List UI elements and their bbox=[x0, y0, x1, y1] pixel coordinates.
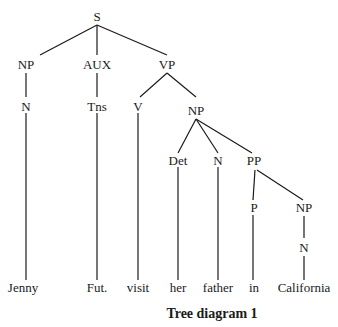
node-N-subject: N bbox=[21, 99, 31, 114]
node-AUX: AUX bbox=[83, 57, 112, 72]
leaf-visit: visit bbox=[127, 280, 150, 295]
figure-caption: Tree diagram 1 bbox=[166, 306, 257, 321]
node-NP-pp: NP bbox=[296, 200, 313, 215]
node-Det: Det bbox=[169, 153, 188, 168]
node-Tns: Tns bbox=[87, 99, 107, 114]
leaf-in: in bbox=[249, 280, 260, 295]
leaf-father: father bbox=[203, 280, 234, 295]
node-PP: PP bbox=[247, 153, 261, 168]
node-NP-object: NP bbox=[188, 103, 205, 118]
node-N-object: N bbox=[213, 153, 223, 168]
leaf-jenny: Jenny bbox=[8, 280, 39, 295]
node-P: P bbox=[250, 200, 257, 215]
node-V: V bbox=[133, 99, 143, 114]
leaf-california: California bbox=[278, 280, 331, 295]
node-N-pp: N bbox=[299, 240, 309, 255]
node-VP: VP bbox=[159, 57, 176, 72]
syntax-tree: S NP AUX VP N Tns V NP Det N PP P NP N J… bbox=[0, 0, 338, 327]
leaf-fut: Fut. bbox=[87, 280, 108, 295]
node-NP-subject: NP bbox=[18, 57, 35, 72]
leaf-her: her bbox=[170, 280, 187, 295]
node-S: S bbox=[93, 9, 100, 24]
